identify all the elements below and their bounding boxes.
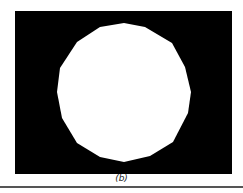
bottom-divider (0, 186, 243, 188)
figure-caption: (b) (0, 173, 243, 183)
white-polygon-disk (0, 0, 243, 193)
polygon-shape (57, 23, 191, 162)
